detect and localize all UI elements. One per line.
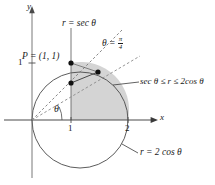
point-P-dot [68,60,73,65]
point-on-circle-dot [95,69,100,74]
inequality-label: sec θ ≤ r ≤ 2cos θ [140,77,204,86]
x-tick-label-1: 1 [68,124,73,133]
angle-arc-theta [59,107,62,120]
ray-angle-label-prefix: θ = [102,38,118,48]
leader-line-circle-label [122,144,138,153]
angle-theta-label: θ [54,104,59,114]
point-P-label: P = (1, 1) [22,52,59,62]
figure-canvas [0,0,215,185]
ray-angle-label: θ = π4 [102,36,123,51]
pi-over-4-fraction: π4 [118,36,123,51]
fraction-denominator: 4 [118,43,123,51]
y-axis-label: y [27,2,31,11]
fraction-numerator: π [118,36,123,43]
x-tick-label-2: 2 [125,124,130,133]
x-axis-label: x [160,113,164,122]
x-axis-arrowhead [151,117,158,123]
circle-label: r = 2 cos θ [140,148,182,158]
point-inner-dot [68,80,73,85]
polar-region-figure: y x 1 1 2 r = sec θ θ = π4 P = (1, 1) se… [0,0,215,185]
secant-line-label: r = sec θ [62,19,96,29]
